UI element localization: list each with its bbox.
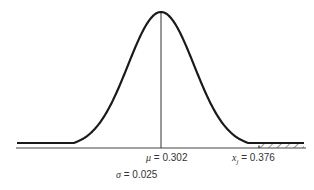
sigma-symbol: σ	[116, 169, 121, 180]
sigma-value: = 0.025	[124, 169, 158, 180]
threshold-label: xj = 0.376	[232, 152, 275, 166]
mean-value: = 0.302	[154, 152, 188, 163]
mean-label: μ = 0.302	[146, 152, 187, 163]
sigma-label: σ = 0.025	[116, 169, 157, 180]
j-subscript: j	[236, 158, 238, 166]
threshold-value: = 0.376	[241, 152, 275, 163]
mu-symbol: μ	[146, 152, 151, 163]
